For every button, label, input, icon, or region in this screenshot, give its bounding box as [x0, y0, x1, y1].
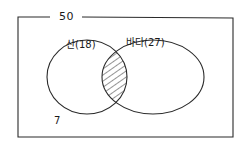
- venn-drawing: [0, 0, 247, 150]
- venn-diagram: 50 산(18) 바다(27) 7: [0, 0, 247, 150]
- set-b-label: 바다(27): [126, 38, 165, 48]
- set-a-label: 산(18): [66, 40, 96, 50]
- outside-count-label: 7: [54, 116, 60, 126]
- universe-label: 50: [56, 11, 77, 22]
